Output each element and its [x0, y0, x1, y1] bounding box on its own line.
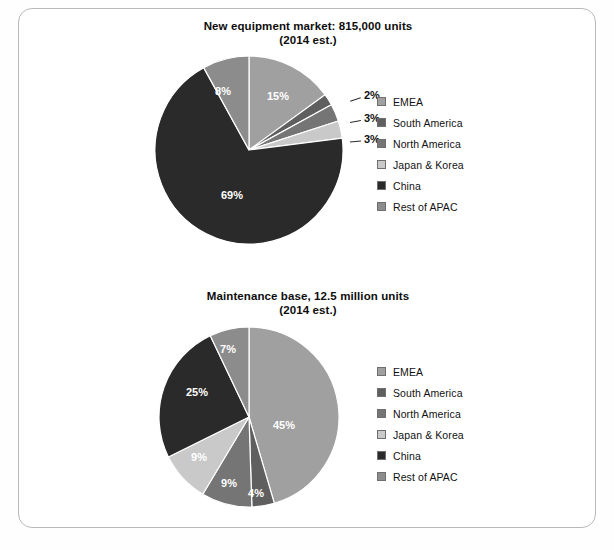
chart2-legend-item-emea[interactable]: EMEA [377, 361, 464, 382]
chart2-legend: EMEA South America North America Japan &… [377, 361, 464, 487]
legend-swatch-rest-of-apac [377, 202, 386, 211]
chart1-label-rest-of-apac: 8% [215, 85, 231, 97]
chart1-pie-svg [154, 55, 344, 245]
chart1-label-emea: 15% [267, 90, 289, 102]
chart-new-equipment-market: New equipment market: 815,000 units (201… [19, 9, 597, 259]
chart1-legend-item-south-america[interactable]: South America [377, 112, 464, 133]
chart1-legend-label-north-america: North America [393, 138, 461, 150]
chart2-pie-svg [158, 326, 340, 508]
figure-page: New equipment market: 815,000 units (201… [0, 0, 614, 550]
legend-swatch-japan-korea [377, 160, 386, 169]
chart2-title-line1: Maintenance base, 12.5 million units [207, 290, 409, 302]
chart2-legend-label-china: China [393, 450, 421, 462]
chart1-leader-south-america [350, 97, 361, 102]
chart1-legend-label-rest-of-apac: Rest of APAC [393, 201, 458, 213]
chart2-label-rest-of-apac: 7% [220, 343, 236, 355]
chart1-legend-item-rest-of-apac[interactable]: Rest of APAC [377, 196, 464, 217]
chart2-legend-item-rest-of-apac[interactable]: Rest of APAC [377, 466, 464, 487]
figure-frame: New equipment market: 815,000 units (201… [18, 8, 596, 528]
legend-swatch-china [377, 451, 386, 460]
legend-swatch-north-america [377, 409, 386, 418]
legend-swatch-emea [377, 97, 386, 106]
chart2-legend-item-south-america[interactable]: South America [377, 382, 464, 403]
legend-swatch-south-america [377, 388, 386, 397]
chart1-legend-item-north-america[interactable]: North America [377, 133, 464, 154]
chart2-title-line2: (2014 est.) [19, 303, 597, 317]
chart1-legend-item-china[interactable]: China [377, 175, 464, 196]
chart1-legend-item-emea[interactable]: EMEA [377, 91, 464, 112]
legend-swatch-rest-of-apac [377, 472, 386, 481]
chart1-pie: 15% 69% 8% [154, 55, 344, 245]
chart2-label-japan-korea: 9% [191, 451, 207, 463]
legend-swatch-north-america [377, 139, 386, 148]
chart1-title-line2: (2014 est.) [19, 33, 597, 47]
chart1-label-china: 69% [221, 189, 243, 201]
chart1-leader-north-america [350, 120, 361, 123]
chart2-label-emea: 45% [273, 419, 295, 431]
chart2-pie: 45% 4% 9% 9% 25% 7% [158, 326, 340, 508]
chart2-title: Maintenance base, 12.5 million units (20… [19, 289, 597, 317]
legend-swatch-south-america [377, 118, 386, 127]
chart2-label-north-america: 9% [221, 477, 237, 489]
chart-maintenance-base: Maintenance base, 12.5 million units (20… [19, 281, 597, 529]
chart2-legend-item-japan-korea[interactable]: Japan & Korea [377, 424, 464, 445]
chart2-legend-item-china[interactable]: China [377, 445, 464, 466]
chart1-title: New equipment market: 815,000 units (201… [19, 19, 597, 47]
chart2-legend-item-north-america[interactable]: North America [377, 403, 464, 424]
chart2-label-south-america: 4% [248, 487, 264, 499]
chart1-legend-item-japan-korea[interactable]: Japan & Korea [377, 154, 464, 175]
chart1-legend-label-japan-korea: Japan & Korea [393, 159, 464, 171]
chart2-legend-label-japan-korea: Japan & Korea [393, 429, 464, 441]
chart1-legend-label-china: China [393, 180, 421, 192]
chart1-legend-label-emea: EMEA [393, 96, 423, 108]
chart2-legend-label-rest-of-apac: Rest of APAC [393, 471, 458, 483]
legend-swatch-china [377, 181, 386, 190]
chart1-leader-japan-korea [350, 141, 361, 143]
legend-swatch-emea [377, 367, 386, 376]
chart1-legend-label-south-america: South America [393, 117, 463, 129]
chart2-legend-label-north-america: North America [393, 408, 461, 420]
chart1-title-line1: New equipment market: 815,000 units [204, 20, 413, 32]
chart1-legend: EMEA South America North America Japan &… [377, 91, 464, 217]
chart2-legend-label-emea: EMEA [393, 366, 423, 378]
chart2-label-china: 25% [186, 386, 208, 398]
chart2-legend-label-south-america: South America [393, 387, 463, 399]
legend-swatch-japan-korea [377, 430, 386, 439]
